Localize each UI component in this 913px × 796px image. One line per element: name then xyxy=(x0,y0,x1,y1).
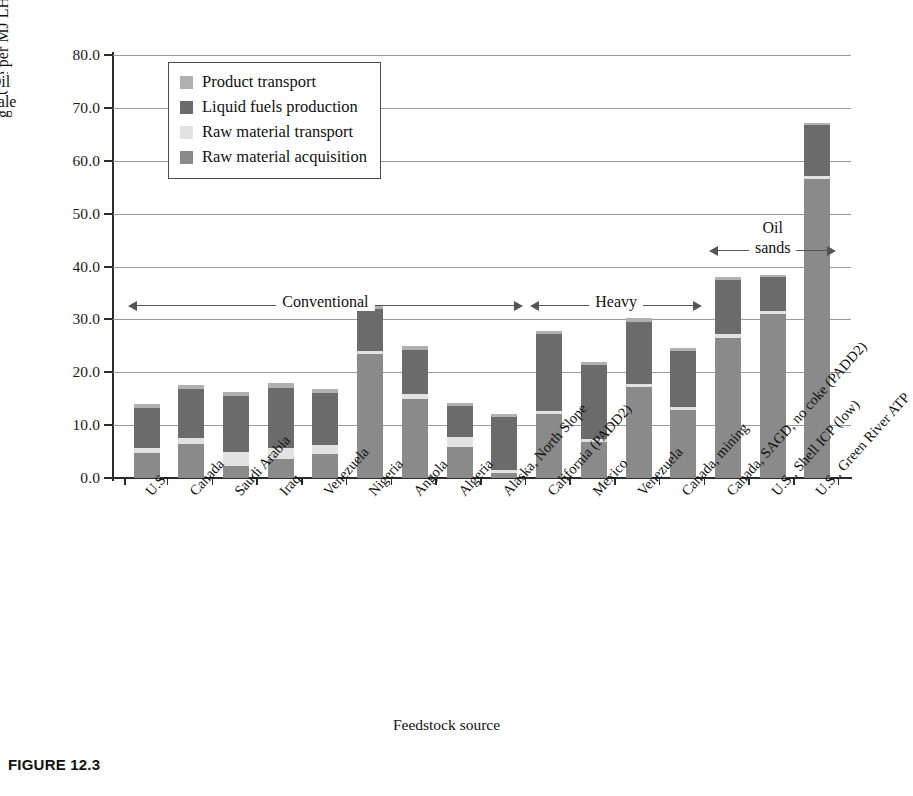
bar-segment-liquid-fuels-production xyxy=(357,309,383,350)
bar-segment-liquid-fuels-production xyxy=(223,396,249,452)
y-axis-tick-mark xyxy=(104,213,113,215)
legend-swatch-liquid-fuels-production xyxy=(180,101,193,114)
y-axis-tick-mark xyxy=(104,371,113,373)
y-axis-tick-mark xyxy=(104,266,113,268)
bar-segment-raw-material-transport xyxy=(804,176,830,179)
bracket-label: Oilsands xyxy=(749,240,797,257)
bar-segment-product-transport xyxy=(223,392,249,396)
legend-label-liquid-fuels-production: Liquid fuels production xyxy=(202,99,358,116)
bar-segment-product-transport xyxy=(178,385,204,389)
bar-angola[interactable] xyxy=(402,55,428,478)
legend-item: Raw material transport xyxy=(180,120,367,145)
y-axis-tick-mark xyxy=(104,107,113,109)
bar-segment-product-transport xyxy=(715,277,741,280)
bar-segment-product-transport xyxy=(626,318,652,322)
figure-caption: FIGURE 12.3 xyxy=(8,756,100,773)
legend-label-product-transport: Product transport xyxy=(202,74,316,91)
bar-segment-liquid-fuels-production xyxy=(536,334,562,412)
bar-segment-raw-material-transport xyxy=(402,394,428,399)
bar-segment-liquid-fuels-production xyxy=(178,389,204,438)
bracket-label: Heavy xyxy=(589,294,643,311)
bar-segment-liquid-fuels-production xyxy=(804,125,830,176)
y-axis-tick-label: 30.0 xyxy=(46,310,100,328)
y-axis-tick-mark xyxy=(104,318,113,320)
bar-segment-raw-material-transport xyxy=(670,407,696,410)
y-axis-tick-label: 40.0 xyxy=(46,258,100,276)
bar-segment-product-transport xyxy=(268,383,294,387)
bar-segment-liquid-fuels-production xyxy=(760,277,786,311)
y-axis-tick-mark xyxy=(104,477,113,479)
bracket-arrow-right-icon xyxy=(693,301,702,311)
y-axis-tick-mark xyxy=(104,160,113,162)
bar-canada-sagd-no-coke-padd2[interactable] xyxy=(715,55,741,478)
bar-segment-product-transport xyxy=(447,403,473,406)
legend-swatch-raw-material-acquisition xyxy=(180,151,193,164)
bar-segment-raw-material-transport xyxy=(357,351,383,354)
bar-segment-raw-material-transport xyxy=(134,448,160,453)
bar-segment-raw-material-transport xyxy=(760,311,786,314)
bar-segment-product-transport xyxy=(491,414,517,417)
bar-segment-raw-material-transport xyxy=(312,445,338,453)
y-axis-tick-label: 70.0 xyxy=(46,99,100,117)
bar-segment-product-transport xyxy=(134,404,160,408)
y-axis-tick-label: 50.0 xyxy=(46,205,100,223)
bar-segment-liquid-fuels-production xyxy=(491,417,517,470)
legend-item: Liquid fuels production xyxy=(180,95,367,120)
bar-segment-product-transport xyxy=(804,123,830,125)
bar-segment-liquid-fuels-production xyxy=(134,408,160,448)
bar-segment-liquid-fuels-production xyxy=(402,350,428,395)
y-axis-tick-label: 0.0 xyxy=(46,469,100,487)
y-axis-tick-label: 80.0 xyxy=(46,46,100,64)
bar-segment-product-transport xyxy=(670,348,696,351)
y-axis-tick-mark xyxy=(104,424,113,426)
bar-segment-raw-material-transport xyxy=(626,384,652,387)
x-axis-title: Feedstock source xyxy=(0,716,893,734)
bar-u-s[interactable] xyxy=(134,55,160,478)
bar-segment-raw-material-transport xyxy=(536,411,562,413)
bracket-arrow-right-icon xyxy=(514,301,523,311)
bar-segment-product-transport xyxy=(312,389,338,394)
bracket-arrow-left-icon xyxy=(530,301,539,311)
legend-label-raw-material-transport: Raw material transport xyxy=(202,124,353,141)
legend-item: Product transport xyxy=(180,70,367,95)
legend-item: Raw material acquisition xyxy=(180,145,367,170)
bar-segment-liquid-fuels-production xyxy=(447,406,473,437)
y-axis-tick-label: 20.0 xyxy=(46,363,100,381)
y-axis-tick-label: 10.0 xyxy=(46,416,100,434)
bar-california-padd2[interactable] xyxy=(536,55,562,478)
bar-canada-mining[interactable] xyxy=(670,55,696,478)
legend-label-raw-material-acquisition: Raw material acquisition xyxy=(202,149,367,166)
x-axis-tick-mark xyxy=(124,477,126,485)
bracket-label: Conventional xyxy=(276,294,374,311)
bracket-arrow-right-icon xyxy=(827,246,836,256)
y-axis-tick-label: 60.0 xyxy=(46,152,100,170)
bar-algeria[interactable] xyxy=(447,55,473,478)
bar-segment-raw-material-transport xyxy=(178,438,204,443)
bracket-arrow-left-icon xyxy=(128,301,137,311)
bar-alaska-north-slope[interactable] xyxy=(491,55,517,478)
legend-swatch-raw-material-transport xyxy=(180,126,193,139)
bracket-label: Oilshale xyxy=(0,94,22,111)
bar-segment-liquid-fuels-production xyxy=(312,393,338,445)
bar-segment-product-transport xyxy=(402,346,428,350)
bar-segment-raw-material-transport xyxy=(715,334,741,338)
legend: Product transport Liquid fuels productio… xyxy=(168,62,381,179)
bar-segment-liquid-fuels-production xyxy=(715,280,741,334)
y-axis-title-suffix: e per MJ LHV of gasoline dispensed xyxy=(0,0,11,78)
bar-segment-liquid-fuels-production xyxy=(670,351,696,407)
bar-segment-product-transport xyxy=(581,362,607,366)
y-axis-tick-mark xyxy=(104,54,113,56)
legend-swatch-product-transport xyxy=(180,76,193,89)
bar-segment-product-transport xyxy=(760,275,786,277)
bar-segment-liquid-fuels-production xyxy=(626,322,652,385)
bar-segment-raw-material-transport xyxy=(223,452,249,466)
bracket-arrow-left-icon xyxy=(709,246,718,256)
bar-u-s-shell-icp-low[interactable] xyxy=(760,55,786,478)
bar-segment-raw-material-transport xyxy=(447,437,473,447)
bar-segment-product-transport xyxy=(536,331,562,334)
